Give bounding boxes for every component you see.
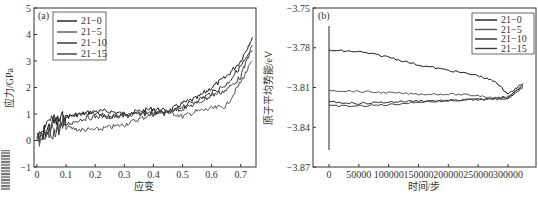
x-tick-label: 0 — [327, 169, 332, 180]
x-tick-label: 200000 — [433, 169, 463, 180]
legend-entry: 21−15 — [81, 48, 107, 59]
panel-tag: (b) — [318, 10, 330, 22]
x-tick-label: 300000 — [493, 169, 523, 180]
x-tick-label: 0 — [35, 169, 40, 180]
series-line-21-0 — [329, 50, 523, 94]
x-tick-label: 50000 — [346, 169, 371, 180]
figure: −101234500.10.20.30.40.50.60.7 (a) 应变 应力… — [0, 0, 538, 199]
y-tick-label: 2 — [26, 82, 31, 93]
y-tick-label: −3.75 — [287, 3, 310, 14]
y-axis-label: 原子平均势能/eV — [262, 50, 274, 125]
x-tick-label: 0.4 — [147, 169, 160, 180]
y-tick-label: 5 — [26, 3, 31, 14]
x-tick-label: 0.5 — [176, 169, 189, 180]
y-tick-label: 3 — [26, 56, 31, 67]
y-tick-label: 1 — [26, 109, 31, 120]
x-tick-label: 0.7 — [234, 169, 247, 180]
y-tick-label: −3.87 — [287, 162, 310, 173]
y-tick-label: −3.81 — [287, 82, 310, 93]
legend: 21−021−521−1021−15 — [472, 13, 534, 54]
legend-entry: 21−5 — [81, 26, 102, 37]
y-axis-label: 应力/GPa — [3, 67, 15, 108]
series-lines — [329, 50, 523, 107]
panel-tag: (a) — [38, 10, 49, 22]
legend-entry: 21−10 — [81, 37, 107, 48]
x-tick-label: 0.1 — [60, 169, 73, 180]
x-tick-label: 0.3 — [118, 169, 131, 180]
series-line-21-10 — [329, 88, 523, 105]
legend: 21−021−521−1021−15 — [53, 12, 107, 60]
x-tick-label: 250000 — [463, 169, 493, 180]
x-axis-label: 时间/步 — [408, 180, 441, 192]
panel-a-stress-strain: −101234500.10.20.30.40.50.60.7 (a) 应变 应力… — [3, 3, 256, 193]
y-tick-label: −1 — [20, 162, 31, 173]
y-tick-label: 4 — [26, 29, 31, 40]
series-line-21-5 — [37, 61, 252, 146]
legend-entry: 21−15 — [501, 43, 527, 54]
x-tick-label: 0.6 — [205, 169, 218, 180]
y-tick-label: −3.84 — [287, 122, 310, 133]
y-tick-label: 0 — [26, 135, 31, 146]
y-tick-label: −3.78 — [287, 42, 310, 53]
x-axis-label: 应变 — [134, 180, 154, 192]
series-line-21-5 — [329, 85, 523, 99]
panel-b-potential-energy: −3.75−3.78−3.81−3.84−3.87050000100000150… — [262, 3, 536, 193]
series-line-21-15 — [329, 86, 523, 107]
legend-entry: 21−0 — [81, 15, 102, 26]
x-tick-label: 0.2 — [89, 169, 102, 180]
x-tick-label: 150000 — [404, 169, 434, 180]
x-tick-label: 100000 — [374, 169, 404, 180]
qr-code-fragment — [1, 150, 10, 190]
